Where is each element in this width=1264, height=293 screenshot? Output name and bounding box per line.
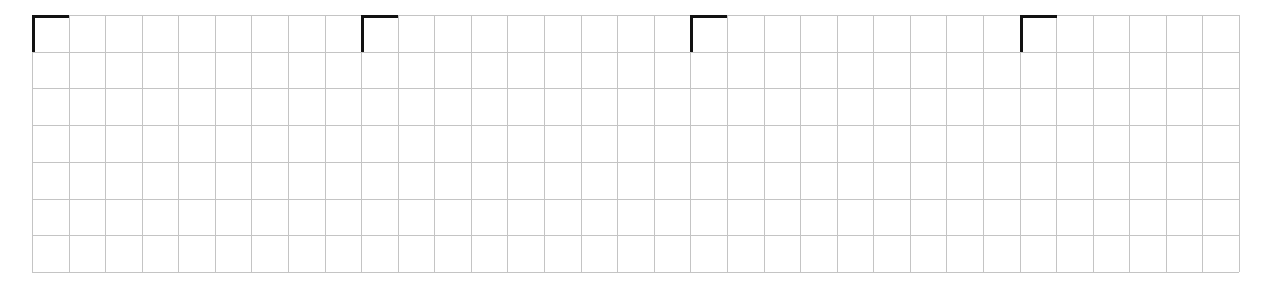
grid-vertical-line [837,15,838,272]
grid-vertical-line [398,15,399,272]
grid-vertical-line [910,15,911,272]
grid-horizontal-line [32,272,1239,273]
grid-horizontal-line [32,15,1239,16]
grid-vertical-line [983,15,984,272]
grid-vertical-line [873,15,874,272]
grid-vertical-line [142,15,143,272]
grid-vertical-line [764,15,765,272]
grid-vertical-line [617,15,618,272]
grid-horizontal-line [32,199,1239,200]
grid-vertical-line [69,15,70,272]
grid-vertical-line [946,15,947,272]
grid-vertical-line [434,15,435,272]
grid-horizontal-line [32,125,1239,126]
grid-vertical-line [1020,15,1021,272]
grid-horizontal-line [32,52,1239,53]
section-start-marker [690,15,727,52]
grid-vertical-line [215,15,216,272]
grid-vertical-line [32,15,33,272]
grid-vertical-line [654,15,655,272]
grid-vertical-line [178,15,179,272]
grid-vertical-line [1056,15,1057,272]
grid-horizontal-line [32,88,1239,89]
section-start-marker [32,15,69,52]
grid-vertical-line [581,15,582,272]
grid-vertical-line [1202,15,1203,272]
grid-vertical-line [727,15,728,272]
grid-vertical-line [544,15,545,272]
grid-horizontal-line [32,162,1239,163]
grid-vertical-line [471,15,472,272]
grid-vertical-line [1166,15,1167,272]
grid-vertical-line [325,15,326,272]
grid-vertical-line [288,15,289,272]
grid-vertical-line [1093,15,1094,272]
grid-vertical-line [1239,15,1240,272]
grid-vertical-line [361,15,362,272]
grid-vertical-line [800,15,801,272]
grid-vertical-line [507,15,508,272]
grid-horizontal-line [32,235,1239,236]
grid-vertical-line [251,15,252,272]
grid-vertical-line [105,15,106,272]
grid-vertical-line [690,15,691,272]
grid-vertical-line [1129,15,1130,272]
section-start-marker [361,15,398,52]
writing-grid [32,15,1239,272]
section-start-marker [1020,15,1057,52]
